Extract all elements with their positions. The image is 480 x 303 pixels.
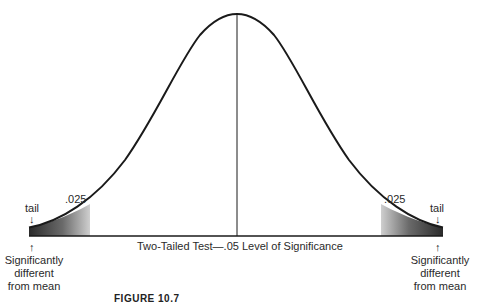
right-tail-up-arrow-icon: ↑ — [435, 242, 441, 253]
bell-curve — [29, 14, 443, 228]
left-area-label: .025 — [65, 193, 86, 205]
left-significance-note: Significantly different from mean — [2, 254, 66, 293]
right-note-line-1: Significantly — [408, 254, 472, 267]
left-note-line-3: from mean — [2, 280, 66, 293]
left-note-line-1: Significantly — [2, 254, 66, 267]
left-tail-down-arrow-icon: ↓ — [29, 214, 35, 225]
figure-caption: FIGURE 10.7 — [114, 293, 180, 303]
right-note-line-3: from mean — [408, 280, 472, 293]
right-tail-down-arrow-icon: ↓ — [435, 214, 441, 225]
right-note-line-2: different — [408, 267, 472, 280]
left-note-line-2: different — [2, 267, 66, 280]
right-area-label: .025 — [384, 193, 405, 205]
right-significance-note: Significantly different from mean — [408, 254, 472, 293]
axis-label: Two-Tailed Test—.05 Level of Significanc… — [137, 240, 337, 252]
left-tail-up-arrow-icon: ↑ — [29, 242, 35, 253]
